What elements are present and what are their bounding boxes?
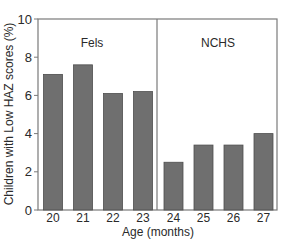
bar-age-27 [254,134,273,210]
y-tick-label: 4 [25,126,32,141]
y-axis-title: Children with Low HAZ scores (%) [2,23,16,206]
x-axis-title: Age (months) [122,225,194,239]
x-axis: 2021222324252627 [46,211,270,225]
panel-label-fels: Fels [81,36,104,50]
y-tick-label: 0 [25,203,32,218]
x-tick-label: 26 [227,211,241,225]
bar-age-24 [164,162,183,210]
x-tick-label: 25 [197,211,211,225]
bar-age-25 [194,145,213,210]
y-tick-label: 8 [25,50,32,65]
x-tick-label: 23 [136,211,150,225]
x-tick-label: 24 [167,211,181,225]
bar-age-23 [134,92,153,210]
chart-canvas: 0246810 2021222324252627 Fels NCHS Age (… [0,0,288,251]
x-tick-label: 20 [46,211,60,225]
y-tick-label: 6 [25,88,32,103]
y-tick-label: 10 [18,12,32,27]
x-tick-label: 21 [76,211,90,225]
x-tick-label: 27 [257,211,271,225]
bar-age-20 [44,74,63,210]
bar-age-26 [224,145,243,210]
bars [44,65,274,210]
panel-label-nchs: NCHS [201,36,235,50]
bar-age-22 [104,93,123,210]
bar-chart: 0246810 2021222324252627 Fels NCHS Age (… [0,0,288,251]
y-tick-label: 2 [25,164,32,179]
x-tick-label: 22 [106,211,120,225]
y-axis: 0246810 [18,12,38,218]
bar-age-21 [74,65,93,210]
